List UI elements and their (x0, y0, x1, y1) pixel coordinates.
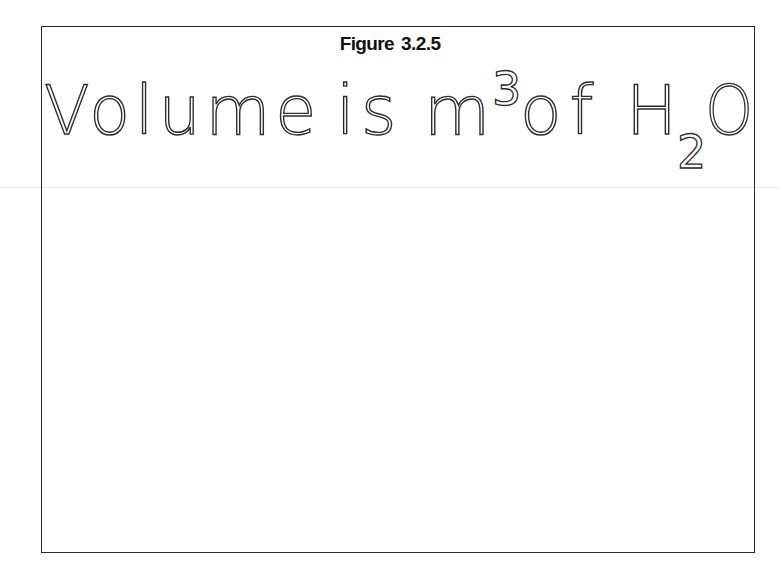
word-volume: Volume (44, 77, 321, 145)
formula-h: H (626, 77, 677, 145)
figure-caption: Figure3.2.5 (0, 33, 780, 55)
word-of: of (520, 77, 602, 145)
figure-label: Figure (340, 33, 394, 54)
word-is: is (336, 77, 402, 145)
formula-subscript: 2 (677, 129, 706, 175)
figure-number: 3.2.5 (401, 33, 440, 54)
formula-o: O (705, 77, 753, 145)
unit-base: m (424, 77, 490, 145)
unit-superscript: 3 (492, 66, 521, 112)
